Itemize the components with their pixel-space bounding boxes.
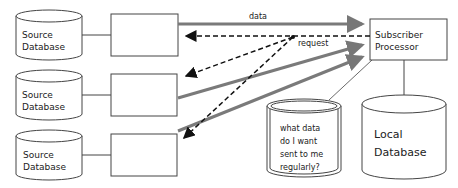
question-store-label: what data do I want sent to me regularly… bbox=[280, 122, 323, 174]
label-line: Source bbox=[22, 89, 65, 101]
label-line: what data bbox=[280, 122, 323, 135]
label-line: Database bbox=[23, 161, 66, 173]
label-line: Subscriber bbox=[375, 29, 423, 41]
source-database-2-label: Source Database bbox=[22, 89, 65, 113]
label-line: Database bbox=[22, 101, 65, 113]
label-line: Database bbox=[22, 41, 65, 53]
data-arrow-2 bbox=[178, 45, 362, 98]
label-line: do I want bbox=[280, 135, 323, 148]
question-link-line bbox=[329, 60, 372, 100]
source-database-1-label: Source Database bbox=[22, 29, 65, 53]
request-edge-label: request bbox=[298, 38, 328, 50]
label-line: regularly? bbox=[280, 161, 323, 174]
request-junction-dot bbox=[291, 35, 295, 39]
agent-box-1 bbox=[111, 14, 178, 56]
label-line: Processor bbox=[375, 41, 423, 53]
label-line: sent to me bbox=[280, 148, 323, 161]
local-database-label: Local Database bbox=[374, 126, 427, 162]
label-line: Source bbox=[22, 29, 65, 41]
label-line: Local bbox=[374, 126, 427, 144]
label-line: Source bbox=[23, 149, 66, 161]
source-database-3-label: Source Database bbox=[23, 149, 66, 173]
subscriber-processor-label: Subscriber Processor bbox=[375, 29, 423, 53]
agent-box-2 bbox=[111, 74, 177, 116]
label-line: Database bbox=[374, 144, 427, 162]
data-edge-label: data bbox=[249, 11, 267, 23]
agent-box-3 bbox=[111, 134, 177, 176]
